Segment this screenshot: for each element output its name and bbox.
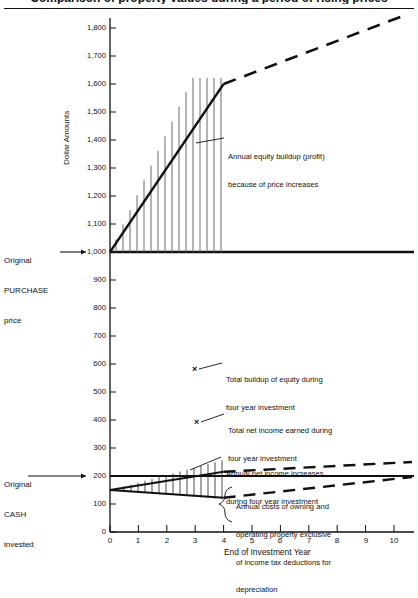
y-tick-label-400: 400 (62, 415, 106, 424)
property-value-line-dashed (224, 14, 408, 84)
annotation-annual-net-income-line-1: Annual net income increases (226, 469, 324, 478)
y-tick-label-1200: 1,200 (62, 191, 106, 200)
y-tick-label-1100: 1,100 (62, 219, 106, 228)
annotation-equity-buildup-line-1: Annual equity buildup (profit) (228, 152, 325, 161)
annotation-equity-buildup-line-2: because of price increases (228, 180, 325, 189)
y-tick-label-100: 100 (62, 499, 106, 508)
y-tick-label-0: 0 (62, 527, 106, 536)
annotation-annual-costs: Annual costs of owning and operating pro… (236, 484, 331, 598)
y-tick-label-1700: 1,700 (62, 51, 106, 60)
y-tick-label-1000: 1,000 (62, 247, 106, 256)
original-cash-invested-label: Original CASH invested (4, 460, 34, 570)
y-ticks (110, 28, 116, 532)
annotation-annual-costs-line-4: depreciation (236, 585, 331, 594)
y-tick-label-200: 200 (62, 471, 106, 480)
annotation-equity-buildup: Annual equity buildup (profit) because o… (228, 134, 325, 208)
x-tick-label-3: 3 (185, 536, 205, 545)
total-equity-leader (199, 363, 222, 369)
x-tick-label-10: 10 (383, 536, 405, 545)
original-cash-invested-line-1: Original (4, 480, 34, 490)
original-cash-invested-line-2: CASH (4, 510, 34, 520)
y-tick-label-300: 300 (62, 443, 106, 452)
x-tick-label-1: 1 (128, 536, 148, 545)
annotation-annual-costs-line-2: operating property exclusive (236, 530, 331, 539)
y-tick-label-900: 900 (62, 275, 106, 284)
original-cash-invested-line-3: invested (4, 540, 34, 550)
total-net-income-x-marker: × (194, 417, 199, 427)
annual-net-income-leader (190, 457, 221, 470)
annotation-total-net-income-line-1: Total net income earned during (228, 426, 332, 435)
annotation-total-buildup-equity-line-1: Total buildup of equity during (226, 375, 323, 384)
annotation-annual-costs-line-1: Annual costs of owning and (236, 502, 331, 511)
y-axis-title: Dollar Amounts (62, 111, 71, 165)
y-tick-label-800: 800 (62, 303, 106, 312)
x-tick-label-2: 2 (157, 536, 177, 545)
net-income-line-solid (110, 472, 224, 490)
x-tick-label-0: 0 (100, 536, 120, 545)
operating-costs-line-solid (110, 490, 224, 498)
annotation-annual-costs-line-3: of income tax deductions for (236, 558, 331, 567)
x-tick-label-9: 9 (356, 536, 376, 545)
original-purchase-price-line-3: price (4, 316, 48, 326)
original-purchase-price-line-1: Original (4, 256, 48, 266)
y-tick-label-1600: 1,600 (62, 79, 106, 88)
total-net-income-leader (201, 414, 224, 422)
y-tick-label-500: 500 (62, 387, 106, 396)
original-purchase-price-line-2: PURCHASE (4, 286, 48, 296)
original-purchase-price-label: Original PURCHASE price (4, 236, 48, 346)
y-tick-label-700: 700 (62, 331, 106, 340)
x-tick-label-4: 4 (214, 536, 234, 545)
total-equity-x-marker: × (192, 364, 197, 374)
y-tick-label-600: 600 (62, 359, 106, 368)
y-tick-label-1800: 1,800 (62, 23, 106, 32)
